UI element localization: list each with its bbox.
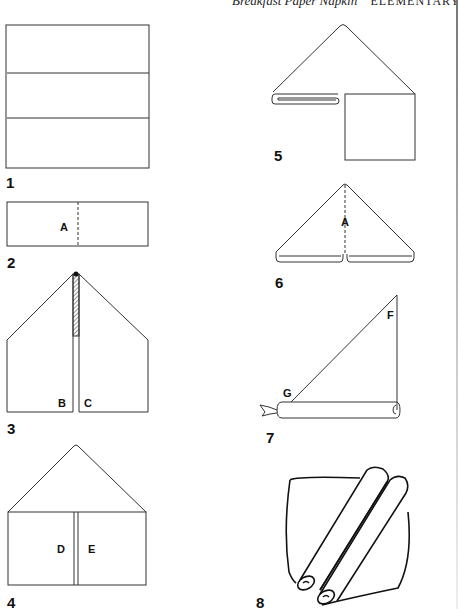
step-number-5: 5 [274, 147, 282, 164]
step-7-figure [260, 295, 400, 418]
label-f: F [387, 309, 394, 321]
label-b: B [58, 397, 66, 409]
label-g: G [283, 387, 292, 399]
step-3-figure [7, 272, 148, 413]
folding-instructions-diagram: 1 2 3 4 5 6 7 8 A B C D E A F G [0, 0, 458, 609]
step-number-2: 2 [7, 254, 15, 271]
step-number-1: 1 [6, 174, 14, 191]
label-e: E [88, 543, 95, 555]
label-d: D [57, 543, 65, 555]
step-1-figure [6, 25, 149, 168]
step-4-figure [8, 445, 146, 585]
step-2-figure [7, 202, 148, 246]
label-a-step-2: A [60, 221, 68, 233]
label-c: C [84, 397, 92, 409]
step-number-7: 7 [266, 429, 274, 446]
step-number-8: 8 [256, 594, 264, 609]
step-number-3: 3 [7, 420, 15, 437]
step-8-figure [286, 467, 409, 606]
step-number-6: 6 [275, 274, 283, 291]
step-number-4: 4 [7, 594, 16, 609]
step-5-figure [272, 25, 415, 161]
label-a-step-6: A [341, 216, 349, 228]
